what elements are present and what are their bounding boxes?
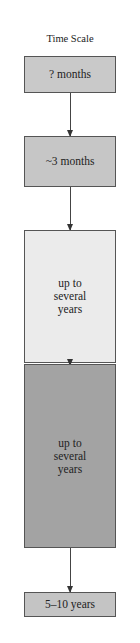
stage-box-3: up to several years — [24, 230, 116, 363]
diagram-title: Time Scale — [0, 33, 140, 44]
arrow-down-icon — [70, 93, 71, 136]
stage-box-5: 5–10 years — [24, 592, 116, 617]
stage-box-4: up to several years — [24, 364, 116, 548]
arrow-down-icon — [70, 187, 71, 230]
stage-label: up to several years — [54, 277, 87, 316]
arrow-down-icon — [70, 548, 71, 592]
stage-label: 5–10 years — [45, 598, 95, 611]
stage-label: ? months — [49, 68, 91, 81]
stage-label: up to several years — [54, 437, 87, 476]
stage-label: ~3 months — [46, 155, 95, 168]
stage-box-1: ? months — [24, 56, 116, 93]
stage-box-2: ~3 months — [24, 136, 116, 187]
